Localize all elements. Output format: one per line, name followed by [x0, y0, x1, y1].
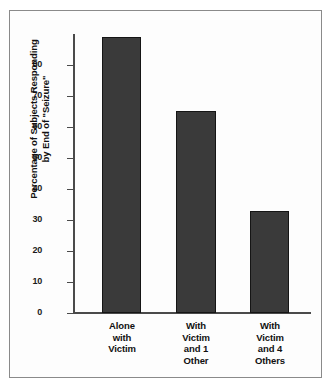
y-tick-mark-30 — [67, 220, 74, 221]
y-tick-label-0: 0 — [37, 307, 42, 317]
y-tick-mark-60 — [67, 127, 74, 128]
y-tick-mark-20 — [67, 251, 74, 252]
x-category-label-1: With Victim and 1 Other — [156, 320, 236, 366]
y-tick-mark-10 — [67, 282, 74, 283]
x-category-label-0: Alone with Victim — [82, 320, 162, 355]
y-axis-line — [73, 34, 75, 314]
chart-frame: 0 10 20 30 40 50 60 70 80 Alone with Vic… — [9, 10, 322, 378]
bar-alone-with-victim — [102, 37, 141, 313]
y-tick-mark-0 — [67, 313, 74, 314]
bar-victim-and-4-others — [250, 211, 289, 313]
y-tick-mark-80 — [67, 65, 74, 66]
y-tick-label-10: 10 — [32, 276, 42, 286]
plot-area: 0 10 20 30 40 50 60 70 80 Alone with Vic… — [10, 11, 321, 377]
bar-victim-and-1-other — [176, 111, 216, 313]
figure: 0 10 20 30 40 50 60 70 80 Alone with Vic… — [0, 0, 332, 388]
y-tick-mark-50 — [67, 158, 74, 159]
y-tick-label-20: 20 — [32, 245, 42, 255]
x-category-label-2: With Victim and 4 Others — [230, 320, 310, 366]
y-axis-title: Percentage of Subjects Responding by End… — [28, 19, 52, 219]
y-tick-mark-40 — [67, 189, 74, 190]
y-tick-mark-70 — [67, 96, 74, 97]
